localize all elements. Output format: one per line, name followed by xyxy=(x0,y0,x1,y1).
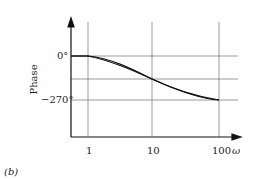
y-axis-arrow-icon xyxy=(68,18,74,27)
panel-label: (b) xyxy=(4,167,18,177)
gridlines xyxy=(71,22,238,137)
y-tick-270: −270° xyxy=(41,95,73,105)
y-tick-0: 0° xyxy=(57,51,68,61)
x-axis-arrow-icon xyxy=(232,134,241,140)
curve-exact xyxy=(71,56,219,100)
curves xyxy=(71,56,219,100)
x-tick-10: 10 xyxy=(147,146,160,156)
x-axis-symbol: ω xyxy=(232,146,240,156)
x-tick-100: 100 xyxy=(212,146,231,156)
y-axis-title: Phase xyxy=(28,64,39,94)
curve-approx xyxy=(71,56,219,100)
x-tick-1: 1 xyxy=(86,146,92,156)
